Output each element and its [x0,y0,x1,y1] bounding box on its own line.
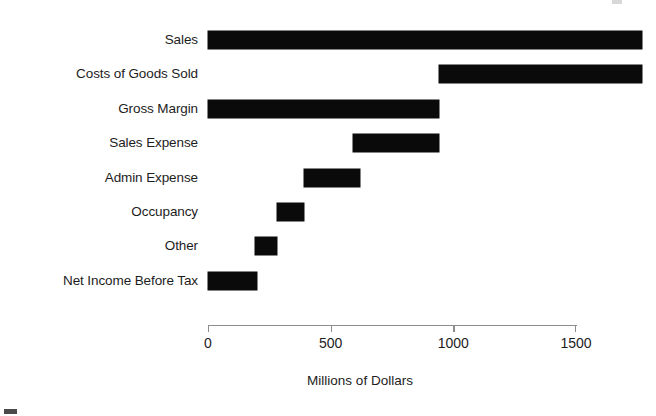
scan-artifact-bottom-left [4,409,17,414]
category-label-admin-expense: Admin Expense [105,171,198,185]
bar-sales [208,31,642,49]
x-tick-label-1500: 1500 [560,336,591,350]
category-label-sales-expense: Sales Expense [109,136,198,150]
x-tick-500 [331,325,332,332]
x-tick-0 [208,325,209,332]
waterfall-chart: SalesCosts of Goods SoldGross MarginSale… [0,0,656,416]
bar-other [255,237,277,255]
x-tick-1000 [453,325,454,332]
bar-gross-margin [208,100,439,118]
x-axis-title: Millions of Dollars [0,374,656,388]
bar-costs-of-goods-sold [439,65,643,83]
category-label-net-income-before-tax: Net Income Before Tax [63,274,198,288]
category-label-other: Other [165,239,198,253]
x-axis-line [208,325,577,326]
bar-admin-expense [304,169,360,187]
x-tick-label-500: 500 [319,336,342,350]
category-label-gross-margin: Gross Margin [118,102,198,116]
x-tick-label-1000: 1000 [438,336,469,350]
bar-occupancy [277,203,304,221]
category-label-occupancy: Occupancy [131,205,198,219]
scan-artifact-top-right [612,0,622,4]
x-tick-label-0: 0 [204,336,212,350]
bar-net-income-before-tax [208,272,257,290]
x-axis-title-text: Millions of Dollars [307,373,413,388]
x-tick-1500 [575,325,576,332]
category-label-costs-of-goods-sold: Costs of Goods Sold [76,67,198,81]
category-label-sales: Sales [165,33,198,47]
bar-sales-expense [353,134,439,152]
